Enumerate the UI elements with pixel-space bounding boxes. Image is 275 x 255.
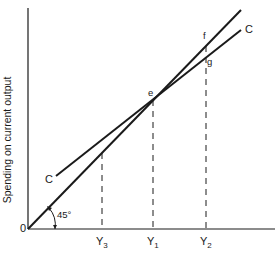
x-tick-y3: Y3 xyxy=(96,236,108,247)
x-tick-y1-sub: 1 xyxy=(154,241,158,250)
consumption-label-start: C xyxy=(45,174,53,185)
x-tick-y3-sub: 3 xyxy=(103,241,107,250)
point-f-label: f xyxy=(203,31,206,41)
angle-label: 45° xyxy=(57,210,71,220)
x-tick-y1: Y1 xyxy=(147,236,159,247)
consumption-label-end: C xyxy=(245,24,253,35)
x-tick-y2-sub: 2 xyxy=(207,241,211,250)
diagram-canvas xyxy=(0,0,275,255)
origin-label: 0 xyxy=(20,223,26,234)
x-tick-y2: Y2 xyxy=(200,236,212,247)
consumption-line xyxy=(56,30,241,176)
y-axis-label: Spending on current output xyxy=(1,77,13,204)
point-g-label: g xyxy=(207,57,212,67)
point-e-label: e xyxy=(148,88,153,98)
forty-five-degree-line xyxy=(28,10,241,229)
